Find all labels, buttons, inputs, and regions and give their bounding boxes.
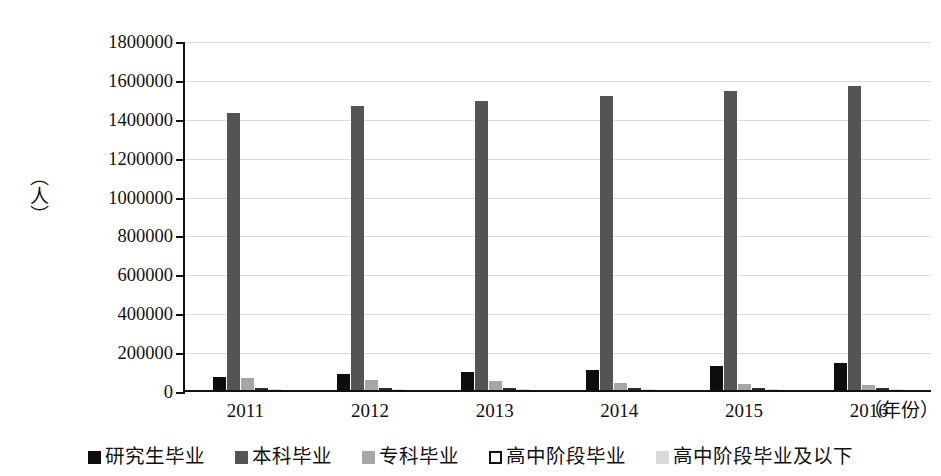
legend-item[interactable]: 高中阶段毕业及以下: [656, 447, 853, 467]
bar[interactable]: [517, 389, 530, 391]
y-tick-label: 1600000: [63, 72, 173, 91]
bar[interactable]: [642, 389, 655, 391]
x-tick-label: 2013: [432, 396, 557, 426]
bar[interactable]: [337, 374, 350, 390]
bar-group: [434, 42, 558, 390]
legend-swatch-icon: [489, 451, 502, 464]
legend-label: 专科毕业: [379, 447, 459, 467]
bar[interactable]: [710, 366, 723, 390]
bar-group: [807, 42, 931, 390]
bar-group: [558, 42, 682, 390]
legend-item[interactable]: 本科毕业: [235, 447, 332, 467]
x-tick-label: 2011: [183, 396, 308, 426]
legend-item[interactable]: 研究生毕业: [88, 447, 205, 467]
bar[interactable]: [890, 389, 903, 391]
x-tick-label: 2015: [682, 396, 807, 426]
x-tick-label: 2012: [308, 396, 433, 426]
legend-item[interactable]: 高中阶段毕业: [489, 447, 626, 467]
bar[interactable]: [876, 388, 889, 390]
bar[interactable]: [766, 389, 779, 391]
bar[interactable]: [241, 378, 254, 390]
y-tick-mark: [176, 353, 185, 355]
bar[interactable]: [475, 101, 488, 390]
y-tick-label: 400000: [63, 305, 173, 324]
legend-label: 本科毕业: [252, 447, 332, 467]
y-tick-mark: [176, 81, 185, 83]
bar[interactable]: [461, 372, 474, 390]
bar-group: [185, 42, 309, 390]
legend-swatch-icon: [235, 451, 248, 464]
legend-item[interactable]: 专科毕业: [362, 447, 459, 467]
y-tick-label: 1000000: [63, 188, 173, 207]
y-tick-mark: [176, 120, 185, 122]
bar[interactable]: [379, 388, 392, 390]
y-tick-label: 1400000: [63, 111, 173, 130]
bar[interactable]: [752, 388, 765, 390]
y-tick-mark: [176, 159, 185, 161]
bar[interactable]: [738, 384, 751, 390]
bar[interactable]: [862, 385, 875, 390]
y-tick-mark: [176, 392, 185, 394]
legend-label: 高中阶段毕业及以下: [673, 447, 853, 467]
x-tick-label: 2014: [557, 396, 682, 426]
y-tick-mark: [176, 198, 185, 200]
legend-swatch-icon: [656, 451, 669, 464]
bar[interactable]: [351, 106, 364, 390]
bar[interactable]: [393, 389, 406, 391]
y-tick-mark: [176, 275, 185, 277]
bar-groups: [185, 42, 931, 390]
bar[interactable]: [489, 381, 502, 390]
bar[interactable]: [724, 91, 737, 390]
y-tick-label: 200000: [63, 344, 173, 363]
bar-chart: （人） 020000040000060000080000010000001200…: [0, 0, 941, 476]
bar[interactable]: [628, 388, 641, 390]
bar-group: [682, 42, 806, 390]
y-tick-label: 1200000: [63, 149, 173, 168]
y-axis-tick-labels: 0200000400000600000800000100000012000001…: [60, 42, 173, 392]
legend-label: 研究生毕业: [105, 447, 205, 467]
bar[interactable]: [848, 86, 861, 390]
y-tick-label: 0: [63, 383, 173, 402]
bar[interactable]: [600, 96, 613, 390]
chart-legend: 研究生毕业本科毕业专科毕业高中阶段毕业高中阶段毕业及以下: [0, 440, 941, 474]
legend-label: 高中阶段毕业: [506, 447, 626, 467]
bar[interactable]: [614, 383, 627, 390]
y-tick-mark: [176, 42, 185, 44]
bar[interactable]: [269, 389, 282, 391]
plot-area: [183, 42, 931, 392]
bar[interactable]: [586, 370, 599, 390]
y-tick-label: 1800000: [63, 33, 173, 52]
bar[interactable]: [503, 388, 516, 390]
x-axis-tick-labels: 201120122013201420152016: [183, 396, 931, 426]
y-tick-mark: [176, 236, 185, 238]
bar[interactable]: [213, 377, 226, 390]
x-tick-label: 2016: [806, 396, 931, 426]
bar[interactable]: [255, 388, 268, 390]
bar-group: [309, 42, 433, 390]
bar[interactable]: [365, 380, 378, 390]
y-tick-label: 600000: [63, 266, 173, 285]
bar[interactable]: [227, 113, 240, 390]
legend-swatch-icon: [88, 451, 101, 464]
bar[interactable]: [834, 363, 847, 390]
y-axis-unit-label: （人）: [8, 150, 68, 240]
legend-swatch-icon: [362, 451, 375, 464]
y-tick-label: 800000: [63, 227, 173, 246]
y-tick-mark: [176, 314, 185, 316]
